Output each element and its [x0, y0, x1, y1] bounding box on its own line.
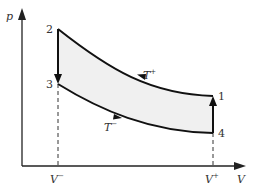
- v-minus-label: V−: [50, 172, 64, 186]
- cold-isotherm-label: T−: [104, 120, 117, 134]
- hot-isotherm-label: T+: [143, 68, 156, 82]
- v-plus-label: V+: [205, 172, 219, 186]
- point-1-label: 1: [218, 90, 225, 103]
- point-2-label: 2: [46, 23, 53, 36]
- cycle-area: [58, 29, 213, 133]
- x-axis-arrow-icon: [234, 162, 246, 170]
- point-4-label: 4: [218, 127, 225, 140]
- pv-diagram: p V 2 3 1 4 T+ T− V− V+: [0, 0, 254, 191]
- point-3-label: 3: [46, 78, 53, 91]
- y-axis-arrow-icon: [18, 8, 26, 20]
- y-axis-label: p: [6, 10, 13, 23]
- x-axis-label: V: [237, 173, 246, 186]
